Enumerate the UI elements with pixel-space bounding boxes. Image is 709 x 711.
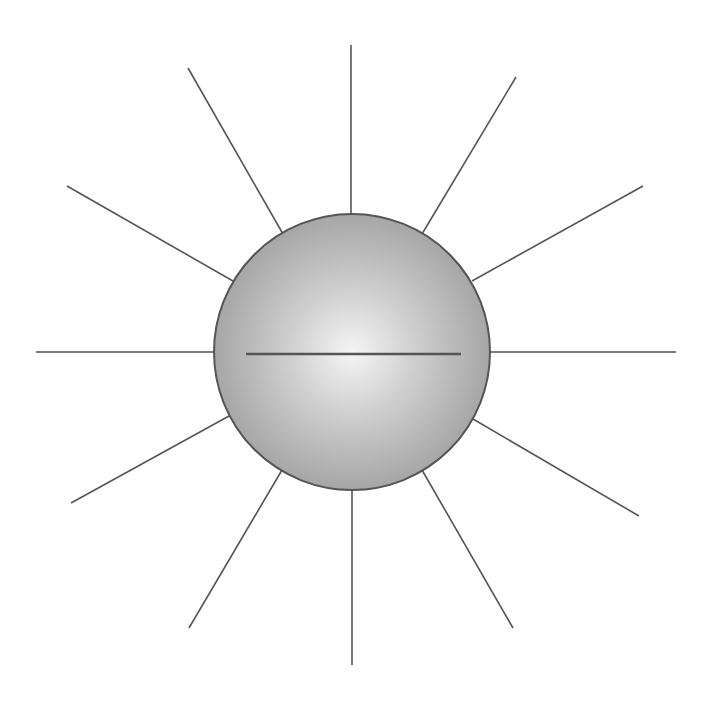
ray-lower-left-line	[71, 416, 229, 503]
ray-bottom-left-line	[189, 470, 282, 628]
sphere-rays-diagram	[0, 0, 709, 711]
ray-upper-left-line	[67, 186, 233, 281]
diagram-canvas	[0, 0, 709, 711]
sphere-shape	[214, 214, 490, 490]
ray-top-right-line	[422, 77, 516, 234]
ray-top-left-line	[188, 68, 283, 234]
ray-bottom-right-line	[422, 470, 513, 628]
ray-upper-right-line	[472, 186, 643, 281]
ray-lower-right-line	[473, 419, 639, 516]
